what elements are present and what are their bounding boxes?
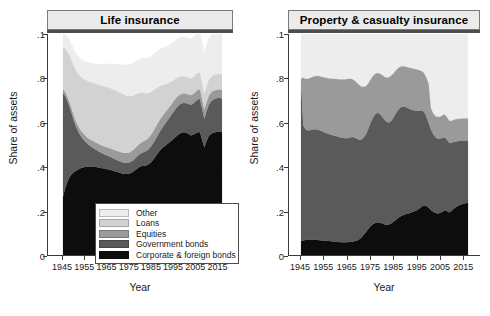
legend-label: Government bonds <box>136 239 208 249</box>
legend-item[interactable]: Other <box>99 208 234 218</box>
legend-label: Loans <box>136 218 159 228</box>
x-axis-tick-label: 1965 <box>337 262 357 272</box>
x-axis-tick-mark <box>370 256 371 260</box>
y-axis-tick-label: .8 <box>260 73 284 84</box>
y-axis-tick-mark <box>284 167 288 168</box>
legend-label: Corporate & foreign bonds <box>136 250 236 260</box>
panel-title-life: Life insurance <box>100 14 179 26</box>
y-axis-tick-mark <box>43 123 47 124</box>
legend-swatch-icon <box>99 240 129 248</box>
y-axis-tick-label: .4 <box>21 162 45 173</box>
legend-swatch-icon <box>99 219 129 227</box>
y-axis-tick-label: 0 <box>260 251 284 262</box>
y-axis-tick-label: 0 <box>21 251 45 262</box>
y-axis-tick-mark <box>43 256 47 257</box>
x-axis-tick-label: 1975 <box>360 262 380 272</box>
x-axis-tick-mark <box>393 256 394 260</box>
y-axis-label-pc: Share of assets <box>248 78 260 178</box>
panel-property-casualty-insurance: Property & casualty insurance Share of a… <box>245 0 490 316</box>
y-axis-tick-label: .2 <box>260 206 284 217</box>
x-axis-tick-mark <box>347 256 348 260</box>
y-axis-tick-mark <box>284 34 288 35</box>
y-axis-tick-label: .1 <box>260 29 284 40</box>
x-axis-tick-label: 2015 <box>453 262 473 272</box>
legend-label: Equities <box>136 229 166 239</box>
x-axis-tick-label: 1995 <box>407 262 427 272</box>
x-axis-tick-label: 1955 <box>74 262 94 272</box>
x-axis-label-pc: Year <box>288 281 480 293</box>
y-axis-tick-mark <box>284 123 288 124</box>
insurance-asset-composition-figure: Life insurance Share of assets Year 0.2.… <box>0 0 490 316</box>
x-axis-tick-label: 1945 <box>290 262 310 272</box>
x-axis-tick-mark <box>323 256 324 260</box>
panel-title-rule-pc <box>288 30 480 33</box>
y-axis-tick-mark <box>43 34 47 35</box>
x-axis-tick-mark <box>440 256 441 260</box>
legend-item[interactable]: Government bonds <box>99 239 234 249</box>
y-axis-tick-label: .6 <box>21 117 45 128</box>
y-axis-label-life: Share of assets <box>7 78 19 178</box>
x-axis-tick-mark <box>300 256 301 260</box>
x-axis-tick-label: 2005 <box>430 262 450 272</box>
x-axis-tick-label: 1985 <box>383 262 403 272</box>
y-axis-tick-mark <box>43 167 47 168</box>
y-axis-tick-label: .6 <box>260 117 284 128</box>
y-axis-tick-mark <box>43 212 47 213</box>
y-axis-tick-label: .4 <box>260 162 284 173</box>
x-axis-tick-mark <box>62 256 63 260</box>
x-axis-tick-mark <box>84 256 85 260</box>
legend-item[interactable]: Corporate & foreign bonds <box>99 250 234 260</box>
y-axis-tick-label: .8 <box>21 73 45 84</box>
x-axis-label-life: Year <box>47 281 233 293</box>
panel-title-rule-life <box>47 30 233 33</box>
legend-item[interactable]: Equities <box>99 229 234 239</box>
y-axis-tick-mark <box>284 78 288 79</box>
legend-label: Other <box>136 208 157 218</box>
panel-title-pc: Property & casualty insurance <box>300 14 468 26</box>
y-axis-tick-mark <box>284 212 288 213</box>
y-axis-tick-mark <box>284 256 288 257</box>
legend-item[interactable]: Loans <box>99 218 234 228</box>
x-axis-tick-mark <box>417 256 418 260</box>
y-axis-tick-mark <box>43 78 47 79</box>
y-axis-tick-label: .2 <box>21 206 45 217</box>
y-axis-tick-label: .1 <box>21 29 45 40</box>
legend-swatch-icon <box>99 251 129 259</box>
x-axis-tick-label: 1945 <box>52 262 72 272</box>
plot-svg-pc <box>289 34 480 255</box>
legend-swatch-icon <box>99 230 129 238</box>
legend-swatch-icon <box>99 209 129 217</box>
plot-area-pc <box>288 34 480 256</box>
panel-title-bar-life: Life insurance <box>47 10 233 30</box>
panel-title-bar-pc: Property & casualty insurance <box>288 10 480 30</box>
x-axis-tick-mark <box>463 256 464 260</box>
x-axis-tick-label: 1955 <box>313 262 333 272</box>
panel-life-insurance: Life insurance Share of assets Year 0.2.… <box>0 0 245 316</box>
chart-legend: OtherLoansEquitiesGovernment bondsCorpor… <box>95 203 239 264</box>
